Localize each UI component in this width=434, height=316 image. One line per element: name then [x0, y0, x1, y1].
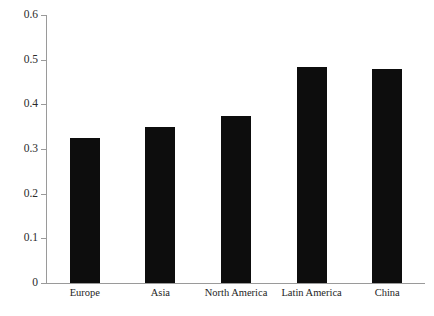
- bar: [372, 69, 402, 283]
- x-axis-category-label: China: [375, 288, 400, 299]
- x-axis-category-label: Europe: [70, 288, 100, 299]
- bars-layer: EuropeAsiaNorth AmericaLatin AmericaChin…: [0, 0, 434, 316]
- x-axis-category-label: North America: [205, 288, 268, 299]
- bar: [70, 138, 100, 283]
- x-axis-category-label: Latin America: [281, 288, 341, 299]
- bar: [297, 67, 327, 283]
- bar: [145, 127, 175, 283]
- bar: [221, 116, 251, 283]
- x-axis-category-label: Asia: [151, 288, 170, 299]
- bar-chart: 0.60.50.40.30.20.10 EuropeAsiaNorth Amer…: [0, 0, 434, 316]
